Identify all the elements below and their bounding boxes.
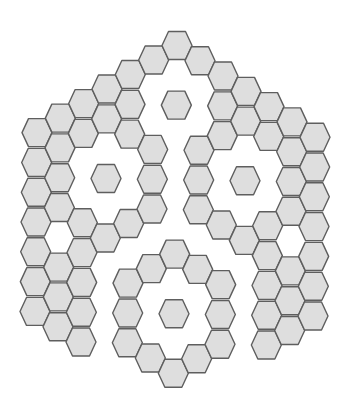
ring-center-hexagon: [230, 167, 260, 195]
hexagon-tile: [299, 242, 329, 270]
hexagon-tile: [206, 271, 236, 299]
hexagon-tile: [205, 330, 235, 358]
hexagon-tile: [298, 272, 328, 300]
hexagon-tile: [299, 213, 329, 241]
hexagon-tile: [205, 300, 235, 328]
hexagon-tile: [184, 166, 214, 194]
hexagon-tile: [115, 90, 145, 118]
hexagon-tile: [298, 302, 328, 330]
hexagon-tile: [137, 165, 167, 193]
hexagon-tile: [66, 298, 96, 326]
hexagon-tile: [137, 195, 167, 223]
hexagon-tile: [300, 153, 330, 181]
ring-center-hexagon: [161, 91, 191, 119]
hexagon-tile: [299, 183, 329, 211]
hexagon-tile: [113, 299, 143, 327]
hexagon-pattern: [0, 0, 352, 414]
hexagon-tile: [66, 328, 96, 356]
ring-center-hexagon: [91, 164, 121, 192]
hexagon-tile: [45, 164, 75, 192]
ring-center-hexagon: [159, 300, 189, 328]
hexagon-tile: [67, 268, 97, 296]
hexagon-tile: [138, 135, 168, 163]
hexagon-tile: [300, 123, 330, 151]
